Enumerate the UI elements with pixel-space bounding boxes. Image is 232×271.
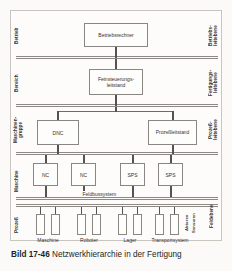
process-box-roboter-b[interactable] [92, 214, 101, 235]
left-label-betrieb: Betrieb [14, 19, 23, 53]
stub-roboter-a [81, 207, 82, 214]
figure-caption-text: Netzwerkhierarchie in der Fertigung [52, 250, 182, 259]
figure-caption-number: Bild 17-46 [11, 250, 50, 259]
process-box-maschine-b[interactable] [51, 214, 60, 235]
left-label-bereich: Bereich [14, 66, 23, 100]
node-prozessleitstand[interactable]: Prozeßleitstand [148, 120, 197, 145]
node-nc-2[interactable]: NC [71, 163, 96, 186]
process-box-lager-a[interactable] [118, 214, 127, 235]
right-label-prozessleitebene: Prozeß- leitebene [208, 111, 219, 149]
figure-caption: Bild 17-46 Netzwerkhierarchie in der Fer… [11, 250, 227, 259]
left-label-maschinengruppe: Maschinen- gruppe [13, 111, 24, 149]
process-box-transportsystem-b[interactable] [170, 214, 179, 235]
connector-maschinengruppe-feed [115, 107, 117, 112]
connector-sps2-down [170, 186, 172, 197]
connector-prozessleitstand-down [172, 145, 174, 154]
connector-sps1-up [132, 155, 134, 163]
divider-maschine-prozess [16, 204, 218, 207]
process-label-transportsystem: Transportsystem [144, 237, 196, 243]
node-dnc[interactable]: DNC [37, 120, 79, 145]
connector-dnc-down [57, 145, 59, 154]
right-label-fertigungsleitebene: Fertigungs- leitebene [208, 63, 219, 103]
stub-transportsystem-a [159, 207, 160, 214]
left-label-maschine: Maschine [14, 161, 23, 201]
process-label-roboter: Roboter [66, 237, 112, 243]
process-box-lager-b[interactable] [133, 214, 142, 235]
right-label-feldebene: Feldebene [209, 197, 218, 235]
connector-prozessleitstand-up [172, 111, 174, 120]
stub-lager-a [122, 207, 123, 214]
connector-sps1-down [132, 186, 134, 197]
stub-transportsystem-b [174, 207, 175, 214]
fieldbus-label: Feldbussystem [81, 191, 118, 197]
process-box-maschine-a[interactable] [36, 214, 45, 235]
connector-bereich-up [115, 59, 117, 69]
node-sps-2[interactable]: SPS [158, 163, 183, 186]
fieldbus-line [16, 197, 218, 200]
network-hierarchy-diagram: Betrieb Bereich Maschinen- gruppe Maschi… [10, 10, 222, 241]
node-betriebsrechner[interactable]: Betriebsrechner [84, 23, 148, 47]
stub-maschine-a [40, 207, 41, 214]
connector-dnc-up [57, 111, 59, 120]
io-label-sensoren: Sensoren [192, 210, 198, 236]
node-nc-1[interactable]: NC [33, 163, 58, 186]
connector-sps2-up [170, 155, 172, 163]
connector-nc1-down [45, 186, 47, 197]
divider-bereich-maschinengruppe [16, 104, 218, 107]
node-sps-1[interactable]: SPS [120, 163, 145, 186]
process-box-transportsystem-a[interactable] [155, 214, 164, 235]
stub-roboter-b [96, 207, 97, 214]
connector-betriebsrechner-down [115, 47, 117, 58]
process-box-roboter-a[interactable] [77, 214, 86, 235]
node-feinsteuerungsleitstand[interactable]: Feinsteuerungs- leitstand [89, 69, 143, 95]
stub-lager-b [137, 207, 138, 214]
connector-feinsteuerungsleitstand-down [115, 95, 117, 106]
left-label-prozess: Prozeß [14, 211, 23, 239]
process-label-maschine: Maschine [25, 237, 71, 243]
divider-betrieb-bereich [16, 56, 218, 59]
connector-nc1-up [45, 155, 47, 163]
right-label-betriebsleitebene: Betriebs- leitebene [208, 17, 219, 55]
stub-maschine-b [55, 207, 56, 214]
connector-nc2-up [83, 155, 85, 163]
